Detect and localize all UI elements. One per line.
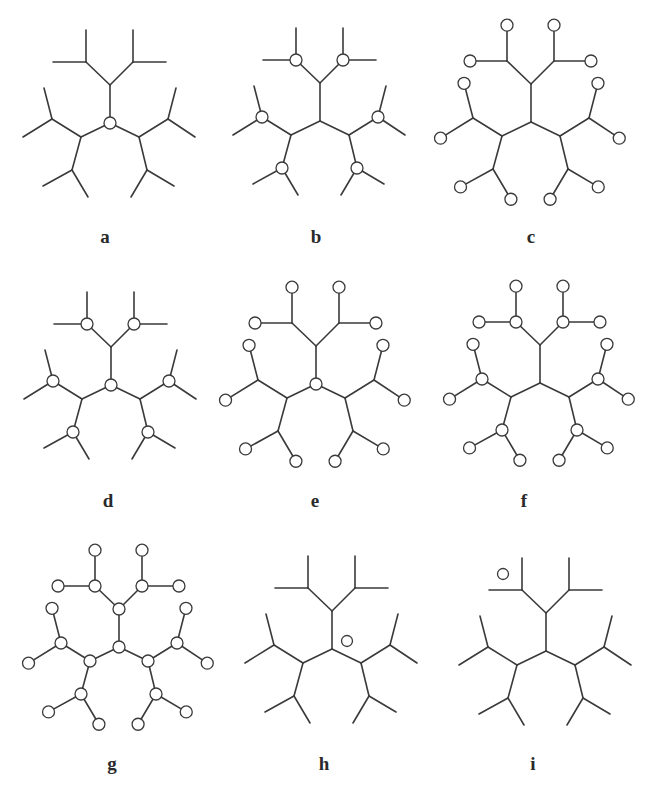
vertex-circle-icon: [585, 55, 597, 67]
tree-edge: [265, 696, 294, 712]
vertex-circle-icon: [476, 373, 488, 385]
tree-edge: [560, 136, 568, 169]
tree-edge: [369, 696, 396, 712]
vertex-circle-icon: [55, 637, 67, 649]
tree-edge: [546, 590, 569, 613]
tree-edge: [23, 119, 52, 137]
vertex-circle-icon: [290, 54, 302, 66]
tree-edge: [52, 119, 81, 137]
vertex-circle-icon: [249, 317, 261, 329]
vertex-circle-icon: [510, 280, 522, 292]
tree-edge: [258, 380, 287, 398]
tree-edge: [479, 698, 508, 714]
vertex-circle-icon: [93, 718, 105, 730]
panel-label-i: i: [530, 753, 535, 775]
vertex-circle-icon: [496, 424, 508, 436]
tree-edge: [110, 62, 133, 85]
vertex-circle-icon: [132, 718, 144, 730]
tree-edge: [139, 119, 168, 137]
tree-edge: [567, 698, 583, 725]
tree-edge: [332, 588, 355, 611]
vertex-circle-icon: [240, 443, 252, 455]
vertex-circle-icon: [276, 162, 288, 174]
tree-edge: [303, 649, 332, 663]
vertex-circle-icon: [89, 544, 101, 556]
panel-d: [24, 292, 196, 459]
panel-a: [23, 30, 195, 197]
tree-edge: [517, 651, 546, 665]
tree-edge: [43, 170, 72, 186]
tree-edge: [488, 647, 517, 665]
vertex-circle-icon: [594, 316, 606, 328]
vertex-circle-icon: [180, 706, 192, 718]
vertex-circle-icon: [75, 688, 87, 700]
vertex-circle-icon: [435, 132, 447, 144]
tree-edge: [345, 380, 374, 398]
vertex-circle-icon: [128, 318, 140, 330]
vertex-circle-icon: [464, 442, 476, 454]
tree-edge: [473, 118, 502, 136]
panel-label-a: a: [100, 226, 110, 248]
panel-h: [245, 556, 417, 723]
vertex-circle-icon: [150, 688, 162, 700]
vertex-circle-icon: [163, 375, 175, 387]
vertex-circle-icon: [372, 111, 384, 123]
tree-edge: [361, 645, 390, 663]
vertex-circle-icon: [455, 181, 467, 193]
vertex-circle-icon: [310, 378, 322, 390]
vertex-circle-icon: [622, 393, 634, 405]
vertex-circle-icon: [89, 580, 101, 592]
panel-i: [459, 558, 631, 725]
panel-label-e: e: [311, 490, 319, 512]
vertex-circle-icon: [505, 193, 517, 205]
vertex-circle-icon: [444, 393, 456, 405]
tree-edge: [86, 62, 110, 85]
vertex-circle-icon: [105, 379, 117, 391]
vertex-circle-icon: [377, 443, 389, 455]
tree-edge: [291, 121, 320, 135]
panel-label-d: d: [103, 490, 114, 512]
tree-edge: [604, 616, 612, 647]
vertex-circle-icon: [613, 132, 625, 144]
tree-edge: [511, 383, 540, 397]
vertex-circle-icon: [553, 454, 565, 466]
vertex-circle-icon: [544, 193, 556, 205]
tree-edge: [575, 647, 604, 665]
vertex-circle-icon: [136, 580, 148, 592]
vertex-circle-icon: [351, 162, 363, 174]
vertex-circle-icon: [592, 373, 604, 385]
tree-edge: [72, 170, 88, 197]
vertex-circle-icon: [220, 394, 232, 406]
vertex-circle-icon: [557, 280, 569, 292]
tree-figure: [0, 0, 649, 802]
vertex-circle-icon: [467, 338, 479, 350]
vertex-circle-icon: [370, 317, 382, 329]
vertex-circle-icon: [113, 603, 125, 615]
floating-circle-icon: [342, 636, 353, 647]
vertex-circle-icon: [46, 602, 58, 614]
vertex-circle-icon: [43, 706, 55, 718]
tree-edge: [361, 663, 369, 696]
vertex-circle-icon: [113, 641, 125, 653]
vertex-circle-icon: [136, 544, 148, 556]
tree-edge: [278, 398, 287, 431]
vertex-circle-icon: [571, 424, 583, 436]
tree-edge: [294, 696, 310, 723]
floating-circle-icon: [498, 569, 509, 580]
panel-label-b: b: [311, 226, 322, 248]
panel-e: [220, 281, 411, 467]
tree-edge: [294, 663, 303, 696]
tree-edge: [493, 136, 502, 169]
vertex-circle-icon: [592, 77, 604, 89]
vertex-circle-icon: [377, 339, 389, 351]
tree-edge: [139, 137, 147, 170]
vertex-circle-icon: [329, 455, 341, 467]
tree-edge: [316, 323, 339, 346]
tree-edge: [245, 645, 274, 663]
panel-c: [435, 19, 626, 205]
panel-g: [23, 544, 214, 730]
tree-edge: [604, 647, 631, 665]
vertex-circle-icon: [601, 442, 613, 454]
vertex-circle-icon: [337, 54, 349, 66]
vertex-circle-icon: [557, 316, 569, 328]
